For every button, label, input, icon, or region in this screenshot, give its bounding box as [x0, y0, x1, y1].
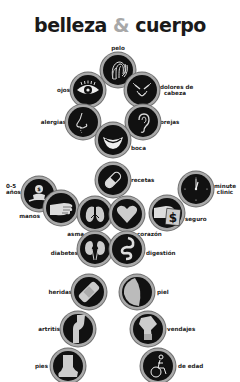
button-de-edad[interactable]	[143, 351, 173, 381]
button-alergias[interactable]	[68, 107, 98, 137]
button-orejas[interactable]	[128, 107, 158, 137]
label-line: cabeza	[160, 90, 200, 96]
button-boca[interactable]	[98, 125, 128, 155]
button-asma[interactable]	[80, 199, 110, 229]
label-recetas: recetas	[131, 177, 159, 183]
label-boca: boca	[131, 145, 151, 151]
label-pies: pies	[28, 363, 48, 369]
kidneys-icon	[80, 234, 110, 264]
label-dolores-de-cabeza: dolores de cabeza	[160, 84, 200, 97]
button-recetas[interactable]	[98, 165, 128, 195]
label-ojos: ojos	[50, 87, 70, 93]
eye-icon	[73, 75, 103, 105]
button-manos[interactable]	[46, 193, 76, 223]
button-artritis[interactable]	[63, 314, 93, 344]
bandage-icon	[74, 277, 104, 307]
label-heridas: heridas	[46, 289, 72, 295]
label-seguro: seguro	[185, 216, 211, 222]
label-line: clinic	[212, 189, 238, 195]
label-vendajes: vendajes	[167, 326, 197, 332]
wheelchair-icon	[143, 351, 173, 381]
button-piel[interactable]	[122, 277, 152, 307]
button-pies[interactable]	[53, 351, 83, 381]
button-vendajes[interactable]	[133, 314, 163, 344]
label-minute-clinic: minute clinic	[212, 183, 238, 196]
page-title: belleza & cuerpo	[0, 14, 240, 36]
knee-brace-icon	[133, 314, 163, 344]
foot-icon	[53, 351, 83, 381]
label-diabetes: diabetes	[46, 250, 78, 256]
label-line: años	[6, 189, 20, 195]
label-digestion: digestión	[146, 250, 180, 256]
ear-icon	[128, 107, 158, 137]
svg-text:$: $	[37, 186, 41, 192]
button-heridas[interactable]	[74, 277, 104, 307]
clock-icon	[181, 174, 211, 204]
insurance-dollar-icon: $	[152, 198, 182, 228]
label-piel: piel	[157, 289, 177, 295]
button-corazon[interactable]	[112, 199, 142, 229]
lungs-icon	[80, 199, 110, 229]
label-orejas: orejas	[160, 119, 190, 125]
digestion-icon	[112, 234, 142, 264]
button-digestion[interactable]	[112, 234, 142, 264]
button-minute-clinic[interactable]	[181, 174, 211, 204]
button-seguro[interactable]: $	[152, 198, 182, 228]
mouth-icon	[98, 125, 128, 155]
label-artritis: artritis	[30, 326, 60, 332]
button-ojos[interactable]	[73, 75, 103, 105]
skin-icon	[122, 277, 152, 307]
button-diabetes[interactable]	[80, 234, 110, 264]
title-belleza: belleza	[34, 14, 107, 36]
label-alergias: alergias	[36, 119, 66, 125]
pill-icon	[98, 165, 128, 195]
title-ampersand: &	[113, 14, 129, 36]
headache-icon	[127, 75, 157, 105]
label-pelo: pelo	[106, 45, 130, 51]
title-cuerpo: cuerpo	[135, 14, 206, 36]
label-manos: manos	[14, 213, 40, 219]
nose-icon	[68, 107, 98, 137]
hand-icon	[46, 193, 76, 223]
svg-text:$: $	[169, 211, 177, 225]
joint-icon	[63, 314, 93, 344]
label-de-edad: de edad	[178, 363, 208, 369]
label-0-5-anos: 0-5 años	[6, 183, 20, 196]
button-dolores-de-cabeza[interactable]	[127, 75, 157, 105]
heart-icon	[112, 199, 142, 229]
